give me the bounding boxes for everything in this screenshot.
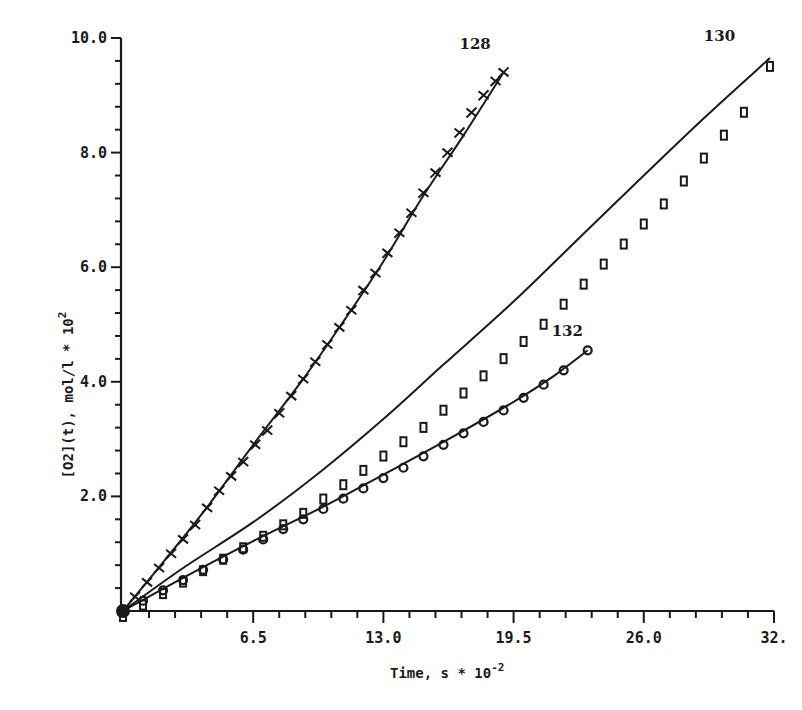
plus-marker: [310, 357, 320, 367]
plus-marker: [322, 340, 332, 350]
y-axis-title: [O2](t), mol/l * 102: [56, 312, 76, 479]
square-marker: [767, 62, 773, 71]
curve-label-128: 128: [460, 35, 491, 53]
chart: 2.04.06.08.010.06.513.019.526.032. 12813…: [0, 0, 802, 710]
x-tick-label: 32.: [760, 629, 787, 647]
curve-label-132: 132: [552, 322, 583, 340]
fit-curve-132: [123, 350, 588, 611]
square-marker: [400, 437, 406, 446]
x-tick-label: 26.0: [626, 629, 662, 647]
square-marker: [380, 452, 386, 461]
square-marker: [320, 495, 326, 504]
plus-marker: [202, 503, 212, 513]
plus-marker: [467, 107, 477, 117]
square-marker: [360, 466, 366, 475]
square-marker: [440, 406, 446, 415]
y-tick-label: 6.0: [80, 258, 107, 276]
square-marker: [481, 371, 487, 380]
plus-marker: [214, 486, 224, 496]
square-marker: [420, 423, 426, 432]
plus-marker: [142, 577, 152, 587]
square-marker: [501, 354, 507, 363]
series-128: [118, 67, 509, 616]
square-marker: [681, 177, 687, 186]
plus-marker: [154, 563, 164, 573]
square-marker: [641, 219, 647, 228]
x-tick-label: 19.5: [496, 629, 532, 647]
plus-marker: [166, 549, 176, 559]
square-marker: [621, 240, 627, 249]
y-tick-label: 10.0: [71, 29, 107, 47]
y-tick-label: 8.0: [80, 144, 107, 162]
square-marker: [741, 108, 747, 117]
square-marker: [340, 480, 346, 489]
plus-marker: [346, 305, 356, 315]
plus-marker: [178, 534, 188, 544]
plus-marker: [286, 391, 296, 401]
axes: 2.04.06.08.010.06.513.019.526.032.: [71, 29, 788, 647]
square-marker: [561, 300, 567, 309]
origin-cluster: [116, 604, 130, 618]
fit-curve-130: [123, 58, 770, 611]
fit-curves: [123, 58, 770, 611]
x-tick-label: 6.5: [240, 629, 267, 647]
x-axis-title: Time, s * 10-2: [390, 661, 504, 681]
plus-marker: [226, 471, 236, 481]
square-marker: [521, 337, 527, 346]
x-tick-label: 13.0: [365, 629, 401, 647]
plus-marker: [499, 67, 509, 77]
square-marker: [541, 320, 547, 329]
plus-marker: [334, 322, 344, 332]
y-tick-label: 4.0: [80, 373, 107, 391]
plus-marker: [298, 374, 308, 384]
y-tick-label: 2.0: [80, 487, 107, 505]
square-marker: [601, 260, 607, 269]
square-marker: [461, 389, 467, 398]
square-marker: [661, 199, 667, 208]
square-marker: [701, 154, 707, 163]
plus-marker: [479, 90, 489, 100]
square-marker: [581, 280, 587, 289]
plus-marker: [370, 268, 380, 278]
plus-marker: [455, 128, 465, 138]
curve-label-130: 130: [704, 27, 735, 45]
square-marker: [721, 131, 727, 140]
